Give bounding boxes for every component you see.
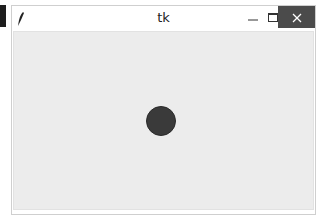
background-window-edge [0, 5, 6, 27]
canvas-oval [146, 106, 176, 136]
minimize-button[interactable] [243, 6, 263, 28]
close-icon [292, 8, 302, 27]
minimize-icon [248, 8, 258, 27]
title-bar[interactable]: tk [12, 6, 315, 30]
maximize-icon [268, 8, 278, 27]
tk-window: tk [11, 5, 316, 215]
close-button[interactable] [278, 6, 315, 28]
tk-canvas[interactable] [13, 31, 314, 210]
